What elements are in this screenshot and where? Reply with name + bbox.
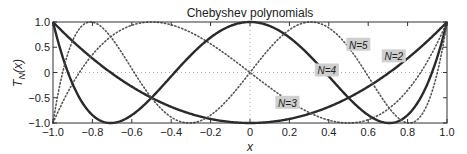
svg-text:N=3: N=3 [278, 98, 297, 109]
x-tick-label: 0.2 [282, 126, 297, 138]
curve-label-n-5: N=5 [346, 38, 370, 51]
curves [53, 22, 447, 123]
x-tick-label: −0.6 [121, 126, 143, 138]
y-tick-label: −0.5 [28, 92, 50, 104]
x-tick-label: 0 [247, 126, 253, 138]
svg-text:N=5: N=5 [349, 40, 368, 51]
chebyshev-chart: Chebyshev polynomials −1.0−0.8−0.6−0.4−0… [0, 0, 467, 154]
y-tick-label: 0 [44, 67, 50, 79]
x-tick-label: −0.2 [200, 126, 222, 138]
svg-text:TN(x): TN(x) [11, 59, 27, 87]
x-tick-label: −0.4 [160, 126, 182, 138]
curve-label-n-3: N=3 [275, 96, 299, 109]
y-axis-label: TN(x) [11, 59, 27, 87]
svg-text:N=2: N=2 [384, 51, 403, 62]
x-tick-label: −0.8 [82, 126, 104, 138]
y-tick-label: 0.5 [35, 41, 50, 53]
y-tick-label: −1.0 [28, 117, 50, 129]
curve-label-n-4: N=4 [315, 63, 339, 76]
x-tick-label: 1.0 [439, 126, 454, 138]
curve-label-n-2: N=2 [382, 49, 406, 62]
chart-title: Chebyshev polynomials [187, 6, 314, 20]
x-tick-label: 0.8 [400, 126, 415, 138]
y-tick-label: 1.0 [35, 16, 50, 28]
x-tick-label: 0.4 [321, 126, 336, 138]
x-axis-label: x [246, 140, 254, 154]
svg-text:N=4: N=4 [318, 65, 337, 76]
x-tick-label: 0.6 [361, 126, 376, 138]
x-axis-ticks: −1.0−0.8−0.6−0.4−0.200.20.40.60.81.0 [42, 22, 455, 138]
